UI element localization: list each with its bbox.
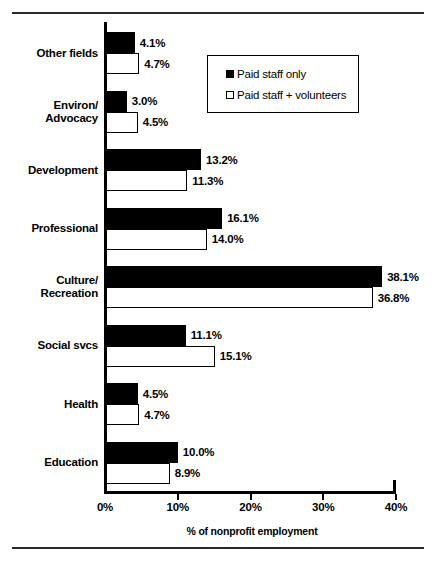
x-axis-tick-label: 20% (239, 501, 261, 513)
bar-row: 16.1% (105, 208, 396, 229)
legend-item-paid-staff-plus-volunteers: Paid staff + volunteers (226, 84, 358, 105)
bar-row: 10.0% (105, 442, 396, 463)
x-axis-tick (322, 494, 324, 500)
y-axis-line (104, 22, 107, 493)
bar-row: 11.3% (105, 170, 396, 191)
bar-paid-staff-only[interactable] (105, 442, 178, 463)
bar-row: 36.8% (105, 287, 396, 308)
bar-row: 14.0% (105, 229, 396, 250)
category-label: Health (0, 398, 98, 411)
bar-row: 4.5% (105, 112, 396, 133)
category-label: Education (0, 456, 98, 469)
category-label-line: Advocacy (0, 112, 98, 125)
x-axis-tick (250, 494, 252, 500)
bar-value-label: 11.3% (187, 175, 223, 187)
x-axis-title: % of nonprofit employment (0, 525, 436, 537)
chart-legend: Paid staff only Paid staff + volunteers (207, 55, 359, 113)
bar-paid-staff-only[interactable] (105, 149, 201, 170)
category-label-line: Environ/ (0, 99, 98, 112)
x-axis-tick-label: 30% (312, 501, 334, 513)
x-axis-tick-label: 40% (385, 501, 407, 513)
bar-value-label: 8.9% (170, 467, 200, 479)
legend-label-paid-staff-plus-volunteers: Paid staff + volunteers (237, 89, 346, 101)
category-label-line: Other fields (0, 47, 98, 60)
category-label-line: Recreation (0, 287, 98, 300)
bar-row: 4.5% (105, 383, 396, 404)
bar-value-label: 15.1% (215, 350, 252, 362)
category-label-line: Professional (0, 222, 98, 235)
bar-value-label: 3.0% (127, 95, 157, 107)
bar-value-label: 4.5% (138, 116, 168, 128)
x-axis-end-tick (393, 480, 396, 493)
x-axis-tick (395, 494, 397, 500)
legend-swatch-hollow-icon (226, 91, 234, 99)
bar-chart-plot-area: Other fields4.1%4.7%Environ/Advocacy3.0%… (0, 0, 436, 561)
chart-page: Other fields4.1%4.7%Environ/Advocacy3.0%… (0, 0, 436, 561)
legend-item-paid-staff-only: Paid staff only (226, 63, 358, 84)
bar-paid-staff-plus-volunteers[interactable] (105, 170, 187, 191)
bar-row: 8.9% (105, 463, 396, 484)
bar-paid-staff-only[interactable] (105, 266, 382, 287)
bar-paid-staff-plus-volunteers[interactable] (105, 53, 139, 74)
bar-row: 11.1% (105, 325, 396, 346)
bar-value-label: 4.1% (135, 37, 165, 49)
category-label: Other fields (0, 47, 98, 60)
bar-value-label: 10.0% (178, 446, 215, 458)
bar-value-label: 16.1% (222, 212, 259, 224)
bar-paid-staff-plus-volunteers[interactable] (105, 287, 373, 308)
bar-paid-staff-plus-volunteers[interactable] (105, 404, 139, 425)
bar-row: 4.1% (105, 32, 396, 53)
category-label: Development (0, 164, 98, 177)
x-axis-tick-label: 0% (97, 501, 113, 513)
x-axis-tick (177, 494, 179, 500)
bar-paid-staff-plus-volunteers[interactable] (105, 112, 138, 133)
category-label-line: Education (0, 456, 98, 469)
category-label-line: Social svcs (0, 339, 98, 352)
bar-paid-staff-plus-volunteers[interactable] (105, 463, 170, 484)
bar-paid-staff-only[interactable] (105, 325, 186, 346)
bar-row: 13.2% (105, 149, 396, 170)
bar-value-label: 11.1% (186, 329, 222, 341)
bar-paid-staff-plus-volunteers[interactable] (105, 346, 215, 367)
bar-value-label: 14.0% (207, 233, 244, 245)
bar-paid-staff-only[interactable] (105, 383, 138, 404)
bar-value-label: 13.2% (201, 154, 238, 166)
category-label-line: Culture/ (0, 274, 98, 287)
bar-paid-staff-only[interactable] (105, 208, 222, 229)
category-label: Environ/Advocacy (0, 99, 98, 125)
bar-value-label: 4.7% (139, 58, 169, 70)
bar-row: 38.1% (105, 266, 396, 287)
bar-paid-staff-only[interactable] (105, 32, 135, 53)
legend-label-paid-staff-only: Paid staff only (237, 68, 306, 80)
bar-row: 4.7% (105, 404, 396, 425)
bar-paid-staff-only[interactable] (105, 91, 127, 112)
bar-paid-staff-plus-volunteers[interactable] (105, 229, 207, 250)
category-label: Culture/Recreation (0, 274, 98, 300)
bar-value-label: 36.8% (373, 292, 410, 304)
category-label: Professional (0, 222, 98, 235)
bar-row: 15.1% (105, 346, 396, 367)
x-axis-tick-label: 10% (167, 501, 189, 513)
category-label: Social svcs (0, 339, 98, 352)
legend-swatch-filled-icon (226, 70, 234, 78)
bar-value-label: 38.1% (382, 271, 419, 283)
bar-value-label: 4.5% (138, 388, 168, 400)
bar-value-label: 4.7% (139, 409, 169, 421)
category-label-line: Health (0, 398, 98, 411)
category-label-line: Development (0, 164, 98, 177)
